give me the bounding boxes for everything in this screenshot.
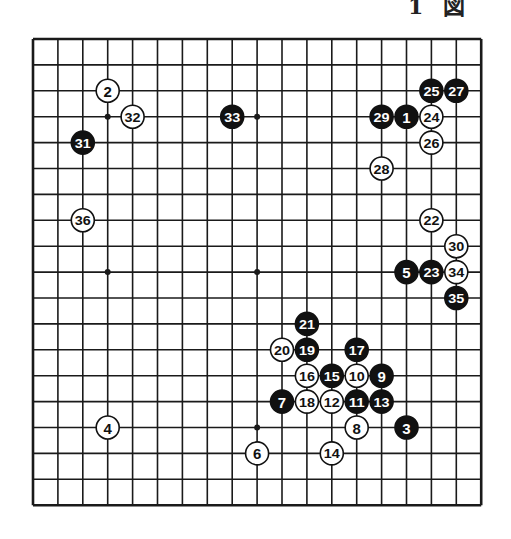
white-stone-34: 34 [445, 261, 468, 284]
move-number: 35 [448, 291, 464, 306]
black-stone-11: 11 [345, 390, 368, 413]
black-stone-21: 21 [295, 312, 318, 335]
white-stone-12: 12 [320, 390, 343, 413]
white-stone-18: 18 [295, 390, 318, 413]
move-number: 9 [377, 368, 385, 385]
white-stone-36: 36 [71, 209, 94, 232]
star-point [254, 114, 260, 120]
black-stone-35: 35 [445, 287, 468, 310]
move-number: 16 [299, 369, 315, 384]
white-stone-8: 8 [345, 416, 368, 439]
black-stone-1: 1 [395, 105, 418, 128]
white-stone-30: 30 [445, 235, 468, 258]
white-stone-22: 22 [420, 209, 443, 232]
white-stone-32: 32 [121, 105, 144, 128]
move-number: 1 [402, 109, 410, 126]
black-stone-23: 23 [420, 261, 443, 284]
move-number: 25 [423, 84, 439, 99]
move-number: 29 [374, 110, 390, 125]
black-stone-5: 5 [395, 261, 418, 284]
move-number: 23 [423, 265, 439, 280]
black-stone-17: 17 [345, 338, 368, 361]
move-number: 12 [324, 395, 340, 410]
move-number: 10 [349, 369, 365, 384]
black-stone-33: 33 [221, 105, 244, 128]
black-stone-25: 25 [420, 79, 443, 102]
move-number: 27 [448, 84, 464, 99]
black-stone-15: 15 [320, 364, 343, 387]
move-number: 11 [349, 395, 365, 410]
move-number: 24 [423, 110, 440, 125]
white-stone-24: 24 [420, 105, 443, 128]
black-stone-27: 27 [445, 79, 468, 102]
move-number: 15 [324, 369, 340, 384]
move-number: 13 [374, 395, 390, 410]
star-point [105, 114, 111, 120]
move-number: 2 [104, 83, 112, 100]
move-number: 5 [402, 264, 410, 281]
black-stone-31: 31 [71, 131, 94, 154]
move-number: 4 [104, 420, 113, 437]
white-stone-28: 28 [370, 157, 393, 180]
move-number: 26 [423, 136, 439, 151]
white-stone-2: 2 [96, 79, 119, 102]
move-number: 30 [448, 239, 464, 254]
move-number: 31 [75, 136, 91, 151]
black-stone-29: 29 [370, 105, 393, 128]
star-point [254, 269, 260, 275]
white-stone-14: 14 [320, 442, 343, 465]
move-number: 14 [324, 446, 341, 461]
white-stone-6: 6 [246, 442, 269, 465]
go-board: 1234567891011121314151617181920212223242… [0, 0, 511, 539]
black-stone-13: 13 [370, 390, 393, 413]
white-stone-10: 10 [345, 364, 368, 387]
move-number: 36 [75, 213, 91, 228]
white-stone-4: 4 [96, 416, 119, 439]
white-stone-16: 16 [295, 364, 318, 387]
black-stone-3: 3 [395, 416, 418, 439]
move-number: 21 [299, 317, 315, 332]
move-number: 34 [448, 265, 465, 280]
move-number: 20 [274, 343, 290, 358]
move-number: 32 [125, 110, 141, 125]
black-stone-7: 7 [271, 390, 294, 413]
black-stone-19: 19 [295, 338, 318, 361]
move-number: 18 [299, 395, 315, 410]
star-point [254, 425, 260, 431]
move-number: 8 [353, 420, 361, 437]
move-number: 3 [402, 420, 410, 437]
move-number: 6 [253, 445, 261, 462]
move-number: 33 [224, 110, 240, 125]
star-point [105, 269, 111, 275]
black-stone-9: 9 [370, 364, 393, 387]
move-number: 17 [349, 343, 365, 358]
white-stone-26: 26 [420, 131, 443, 154]
move-number: 7 [278, 394, 286, 411]
move-number: 28 [374, 162, 390, 177]
move-number: 19 [299, 343, 315, 358]
move-number: 22 [423, 213, 439, 228]
white-stone-20: 20 [271, 338, 294, 361]
